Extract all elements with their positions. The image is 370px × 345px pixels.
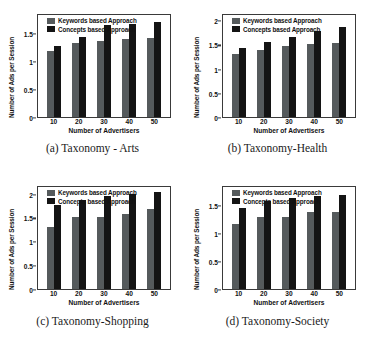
bar-concepts bbox=[79, 200, 86, 289]
chart-panel-c: Number of Ads per Session00.511.52Keywor… bbox=[0, 172, 185, 345]
chart-panel-b: Number of Ads per Session00.511.52Keywor… bbox=[185, 0, 370, 172]
bar-concepts bbox=[79, 37, 86, 117]
legend-swatch-concepts bbox=[47, 198, 55, 204]
bar-group bbox=[47, 205, 61, 289]
legend-swatch-keywords bbox=[47, 18, 55, 24]
bar-keywords bbox=[307, 44, 314, 117]
bar-group bbox=[257, 42, 271, 117]
y-tick-mark bbox=[33, 61, 36, 62]
legend-swatch-concepts bbox=[232, 26, 240, 32]
bar-concepts bbox=[264, 42, 271, 117]
x-axis-label: Number of Advertisers bbox=[37, 127, 171, 134]
bar-concepts bbox=[339, 27, 346, 117]
bar-concepts bbox=[54, 205, 61, 289]
y-tick-mark bbox=[218, 261, 221, 262]
bar-group bbox=[72, 37, 86, 117]
y-tick-mark bbox=[33, 289, 36, 290]
y-tick-mark bbox=[218, 205, 221, 206]
bar-concepts bbox=[129, 24, 136, 117]
bar-keywords bbox=[332, 43, 339, 117]
y-tick-label: 0.5 bbox=[24, 86, 33, 93]
legend-label-keywords: Keywords based Approach bbox=[243, 189, 322, 196]
legend-item-concepts: Concepts based Approach bbox=[232, 26, 322, 33]
legend-swatch-keywords bbox=[232, 18, 240, 24]
y-axis-label: Number of Ads per Session bbox=[0, 14, 11, 118]
y-tick-label: 1.5 bbox=[24, 30, 33, 37]
y-tick-label: 0.5 bbox=[209, 90, 218, 97]
y-tick-mark bbox=[33, 117, 36, 118]
bar-concepts bbox=[264, 201, 271, 289]
bar-group bbox=[257, 201, 271, 289]
bar-group bbox=[282, 198, 296, 289]
legend: Keywords based ApproachConcepts based Ap… bbox=[232, 17, 322, 33]
bar-concepts bbox=[289, 198, 296, 289]
y-tick-label: 1.5 bbox=[24, 215, 33, 222]
bar-concepts bbox=[289, 37, 296, 117]
chart-panel-a: Number of Ads per Session00.511.5Keyword… bbox=[0, 0, 185, 172]
y-axis-label: Number of Ads per Session bbox=[184, 186, 196, 290]
legend-item-keywords: Keywords based Approach bbox=[47, 189, 137, 196]
bar-group bbox=[282, 37, 296, 117]
bar-group bbox=[47, 46, 61, 117]
bar-concepts bbox=[154, 22, 161, 117]
legend-item-keywords: Keywords based Approach bbox=[232, 189, 322, 196]
bar-keywords bbox=[47, 227, 54, 289]
y-tick-label: 0.5 bbox=[209, 258, 218, 265]
y-tick-mark bbox=[33, 33, 36, 34]
y-tick-mark bbox=[218, 21, 221, 22]
bar-group bbox=[147, 22, 161, 117]
bar-group bbox=[332, 195, 346, 289]
bar-keywords bbox=[122, 214, 129, 289]
bar-keywords bbox=[97, 217, 104, 290]
bar-keywords bbox=[147, 209, 154, 289]
bar-keywords bbox=[232, 54, 239, 117]
legend-swatch-concepts bbox=[232, 198, 240, 204]
legend-item-keywords: Keywords based Approach bbox=[47, 17, 137, 24]
legend-label-concepts: Concepts based Approach bbox=[58, 198, 135, 205]
bar-concepts bbox=[339, 195, 346, 289]
legend-item-concepts: Concepts based Approach bbox=[47, 26, 137, 33]
bar-group bbox=[72, 200, 86, 289]
legend-label-concepts: Concepts based Approach bbox=[58, 26, 135, 33]
y-axis-ticks: 00.511.5 bbox=[12, 14, 36, 118]
y-tick-mark bbox=[33, 242, 36, 243]
legend-item-concepts: Concepts based Approach bbox=[47, 198, 137, 205]
legend-label-keywords: Keywords based Approach bbox=[243, 17, 322, 24]
y-tick-mark bbox=[33, 89, 36, 90]
y-tick-label: 1.5 bbox=[209, 202, 218, 209]
bar-keywords bbox=[307, 212, 314, 289]
y-tick-mark bbox=[218, 233, 221, 234]
y-tick-mark bbox=[218, 45, 221, 46]
y-tick-label: 0.5 bbox=[24, 263, 33, 270]
bar-keywords bbox=[282, 46, 289, 117]
chart-panel-d: Number of Ads per Session00.511.5Keyword… bbox=[185, 172, 370, 345]
bar-keywords bbox=[147, 38, 154, 117]
bar-group bbox=[97, 196, 111, 289]
y-axis-label: Number of Ads per Session bbox=[0, 186, 11, 290]
panel-grid: Number of Ads per Session00.511.5Keyword… bbox=[0, 0, 370, 345]
bar-keywords bbox=[72, 217, 79, 289]
panel-caption-b: (b) Taxonomy-Health bbox=[185, 142, 370, 154]
y-tick-mark bbox=[33, 266, 36, 267]
bar-keywords bbox=[282, 217, 289, 289]
bar-concepts bbox=[104, 25, 111, 117]
bar-concepts bbox=[154, 192, 161, 289]
legend-item-concepts: Concepts based Approach bbox=[232, 198, 322, 205]
bar-group bbox=[307, 31, 321, 117]
figure-four-panel-bar-charts: Number of Ads per Session00.511.5Keyword… bbox=[0, 0, 370, 345]
bar-concepts bbox=[129, 194, 136, 289]
panel-caption-d: (d) Taxonomy-Society bbox=[185, 315, 370, 327]
bar-keywords bbox=[122, 39, 129, 117]
y-axis-label: Number of Ads per Session bbox=[184, 14, 196, 118]
bar-concepts bbox=[104, 196, 111, 289]
bar-concepts bbox=[239, 48, 246, 117]
legend: Keywords based ApproachConcepts based Ap… bbox=[47, 189, 137, 205]
y-tick-mark bbox=[33, 218, 36, 219]
bar-concepts bbox=[54, 46, 61, 117]
bar-group bbox=[122, 24, 136, 117]
bar-keywords bbox=[332, 212, 339, 289]
legend-swatch-keywords bbox=[232, 190, 240, 196]
bar-group bbox=[232, 208, 246, 289]
y-tick-mark bbox=[218, 93, 221, 94]
bar-keywords bbox=[257, 50, 264, 117]
